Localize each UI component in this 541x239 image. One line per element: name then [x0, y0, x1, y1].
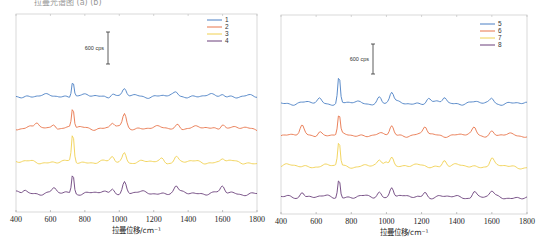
- x-tick-label: 400: [275, 217, 287, 226]
- x-tick-label: 1600: [484, 217, 500, 226]
- spectrum-line-2: [16, 110, 257, 131]
- x-axis-title: 拉曼位移/cm⁻¹: [112, 225, 161, 235]
- spectrum-line-4: [16, 176, 257, 196]
- spectrum-line-6: [281, 116, 527, 137]
- legend-label-1: 1: [225, 16, 229, 23]
- caption-fragment: 拉曼光谱图 (a) (b): [34, 0, 102, 7]
- spectrum-line-1: [16, 83, 257, 98]
- x-tick-label: 600: [310, 217, 322, 226]
- x-tick-label: 1400: [180, 215, 196, 224]
- x-tick-label: 1600: [215, 215, 231, 224]
- x-tick-label: 800: [345, 217, 357, 226]
- left-chart-panel: 40060080010001200140016001800拉曼位移/cm⁻¹60…: [10, 14, 265, 235]
- x-tick-label: 1400: [449, 217, 465, 226]
- x-tick-label: 600: [44, 215, 56, 224]
- x-tick-label: 1800: [519, 217, 535, 226]
- x-tick-label: 1000: [111, 215, 127, 224]
- x-tick-label: 1200: [414, 217, 430, 226]
- right-chart-panel: 40060080010001200140016001800拉曼位移/cm⁻¹60…: [275, 15, 535, 237]
- x-tick-label: 800: [79, 215, 91, 224]
- raman-spectra-figure: 拉曼光谱图 (a) (b) 40060080010001200140016001…: [0, 0, 541, 239]
- legend-label-7: 7: [498, 34, 502, 41]
- legend-label-3: 3: [225, 30, 229, 37]
- spectrum-line-3: [16, 136, 257, 164]
- x-tick-label: 1800: [249, 215, 265, 224]
- legend-label-2: 2: [225, 23, 229, 30]
- x-tick-label: 1000: [378, 217, 394, 226]
- spectrum-line-7: [281, 143, 527, 169]
- scale-bar-label: 600 cps: [85, 45, 105, 51]
- legend-label-8: 8: [498, 41, 502, 48]
- legend-label-6: 6: [498, 27, 502, 34]
- legend-label-4: 4: [225, 37, 229, 44]
- spectrum-line-8: [281, 181, 527, 199]
- legend-label-5: 5: [498, 20, 502, 27]
- x-tick-label: 400: [10, 215, 22, 224]
- plot-frame: [16, 14, 257, 212]
- spectrum-line-5: [281, 78, 527, 105]
- x-tick-label: 1200: [146, 215, 162, 224]
- scale-bar-label: 600 cps: [350, 56, 370, 62]
- x-axis-title: 拉曼位移/cm⁻¹: [380, 227, 429, 237]
